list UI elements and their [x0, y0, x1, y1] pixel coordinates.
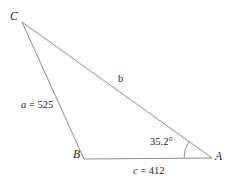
triangle-figure — [0, 0, 231, 185]
side-label-b: b — [118, 74, 123, 85]
side-a-line — [22, 22, 84, 159]
vertex-label-a: A — [215, 151, 222, 163]
angle-label-a: 35.2° — [150, 137, 173, 148]
vertex-label-c: C — [10, 11, 18, 23]
angle-arc-a — [184, 141, 189, 158]
side-b-line — [22, 22, 212, 158]
side-label-c: c = 412 — [133, 166, 165, 177]
side-label-a: a = 525 — [21, 100, 53, 111]
vertex-label-b: B — [73, 149, 80, 161]
side-c-line — [84, 158, 212, 159]
